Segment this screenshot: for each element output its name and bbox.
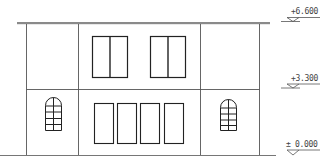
building-frame: [27, 24, 260, 155]
upper-window-right: [151, 37, 186, 78]
upper-window-left: [93, 37, 128, 78]
level-marker-ground: [287, 150, 320, 155]
level-label-first-floor: +3.300: [291, 75, 318, 83]
roof-line: [17, 22, 270, 24]
level-label-ground: ± 0.000: [286, 141, 318, 149]
arched-window-left: [46, 98, 62, 131]
elevation-drawing: [0, 0, 328, 166]
level-marker-roof: [281, 18, 320, 22]
ground-floor-doors: [95, 104, 184, 144]
level-marker-first-floor: [281, 84, 320, 88]
level-label-roof: +6.600: [291, 8, 318, 16]
arched-window-right: [221, 100, 237, 131]
